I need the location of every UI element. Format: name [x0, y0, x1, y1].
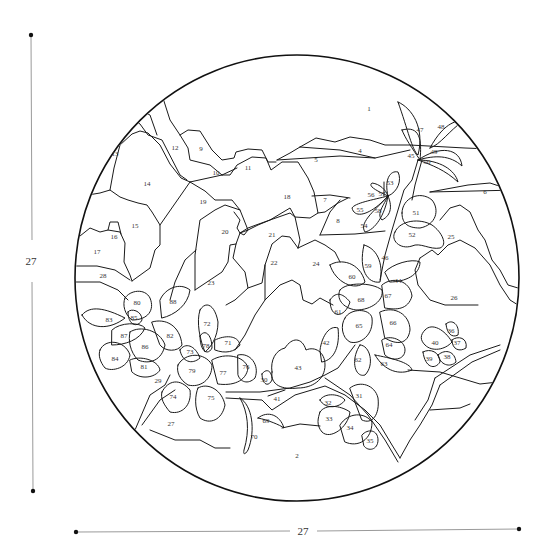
width-dimension-label: 27: [295, 526, 312, 537]
circular-frame: [75, 55, 519, 501]
line-art-canvas: [0, 0, 542, 555]
pattern-diagram: 1245678910111213141516171819202122232425…: [0, 0, 542, 555]
height-dimension-label: 27: [23, 256, 40, 267]
pattern-lines: [75, 88, 518, 462]
